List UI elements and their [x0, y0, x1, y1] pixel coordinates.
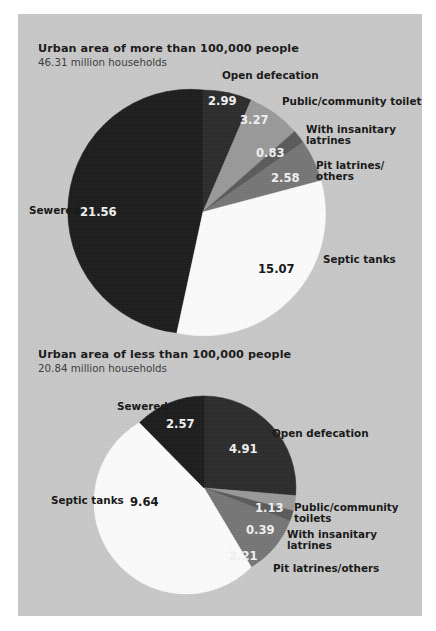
bottom-label-pit-latrines: Pit latrines/others	[273, 563, 379, 575]
bottom-value-pit-latrines: 2.21	[229, 549, 258, 563]
bottom-pie-svg	[18, 14, 422, 616]
bottom-label-open-defecation: Open defecation	[272, 428, 369, 440]
bottom-label-sewered: Sewered	[117, 401, 168, 413]
bottom-value-public-toilets: 1.13	[255, 501, 284, 515]
bottom-label-insanitary-latrines-line2: latrines	[287, 540, 332, 552]
bottom-label-septic-tanks: Septic tanks	[51, 495, 124, 507]
bottom-value-septic-tanks: 9.64	[130, 495, 159, 509]
figure-panel: Urban area of more than 100,000 people 4…	[18, 14, 422, 616]
bottom-label-public-toilets-line2: toilets	[294, 513, 331, 525]
bottom-value-sewered: 2.57	[166, 417, 195, 431]
bottom-value-insanitary-latrines: 0.39	[246, 523, 275, 537]
bottom-value-open-defecation: 4.91	[229, 442, 258, 456]
